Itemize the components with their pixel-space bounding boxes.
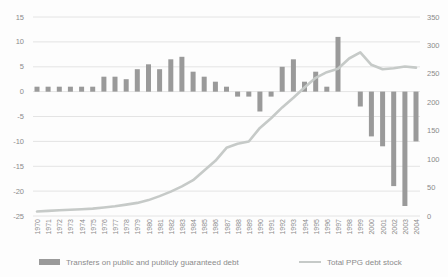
bar-2001 (380, 92, 385, 147)
bar-1985 (202, 77, 207, 92)
debt-transfers-chart: 151050-5-10-15-20-2535030025020015010050… (0, 0, 448, 256)
x-tick-label-1989: 1989 (246, 219, 253, 235)
bar-1976 (101, 77, 106, 92)
bar-1996 (324, 87, 329, 92)
right-axis-tick-250: 250 (427, 69, 440, 78)
x-tick-label-1983: 1983 (179, 219, 186, 235)
bar-1980 (146, 64, 151, 91)
left-axis-tick--10: -10 (13, 137, 24, 146)
x-tick-label-1995: 1995 (313, 219, 320, 235)
x-tick-label-1984: 1984 (190, 219, 197, 235)
bar-1990 (257, 92, 262, 112)
bar-2002 (391, 92, 396, 187)
bar-2000 (369, 92, 374, 137)
x-tick-label-1982: 1982 (168, 219, 175, 235)
bar-1978 (124, 79, 129, 91)
bar-1974 (79, 87, 84, 92)
bar-1979 (135, 69, 140, 91)
x-tick-label-1990: 1990 (257, 219, 264, 235)
left-axis-tick-15: 15 (16, 13, 24, 22)
x-tick-label-1999: 1999 (357, 219, 364, 235)
x-tick-label-1986: 1986 (212, 219, 219, 235)
line-series-swatch (299, 261, 321, 263)
x-tick-label-1981: 1981 (157, 219, 164, 235)
x-tick-label-1971: 1971 (45, 219, 52, 235)
left-axis-tick-0: 0 (20, 87, 24, 96)
x-tick-label-1993: 1993 (290, 219, 297, 235)
x-tick-label-1976: 1976 (101, 219, 108, 235)
x-tick-label-1994: 1994 (302, 219, 309, 235)
bar-1984 (191, 72, 196, 92)
x-tick-label-1998: 1998 (346, 219, 353, 235)
right-axis-tick-300: 300 (427, 41, 440, 50)
left-axis-tick--25: -25 (13, 212, 24, 221)
left-axis-tick--5: -5 (17, 112, 24, 121)
chart-legend: Transfers on public and publicly guarant… (0, 257, 448, 271)
x-tick-label-1977: 1977 (112, 219, 119, 235)
x-tick-label-1997: 1997 (335, 219, 342, 235)
right-axis-tick-50: 50 (427, 183, 435, 192)
x-tick-label-2002: 2002 (391, 219, 398, 235)
bar-2003 (402, 92, 407, 206)
legend-item-transfers: Transfers on public and publicly guarant… (39, 257, 239, 267)
right-axis-tick-150: 150 (427, 126, 440, 135)
x-tick-label-2001: 2001 (380, 219, 387, 235)
bar-1989 (246, 92, 251, 97)
x-tick-label-1973: 1973 (67, 219, 74, 235)
line-series-label: Total PPG debt stock (327, 258, 402, 267)
bar-1992 (280, 67, 285, 92)
bar-1993 (291, 59, 296, 91)
right-axis-tick-200: 200 (427, 98, 440, 107)
bar-1977 (113, 77, 118, 92)
bar-1975 (90, 87, 95, 92)
x-tick-label-1970: 1970 (34, 219, 41, 235)
bar-1971 (46, 87, 51, 92)
bar-1982 (168, 59, 173, 91)
bar-1981 (157, 69, 162, 91)
bar-1997 (336, 37, 341, 92)
x-tick-label-2004: 2004 (413, 219, 420, 235)
x-tick-label-1996: 1996 (324, 219, 331, 235)
x-tick-label-1992: 1992 (279, 219, 286, 235)
bar-series-label: Transfers on public and publicly guarant… (66, 258, 239, 267)
left-axis-tick-5: 5 (20, 62, 24, 71)
x-tick-label-1972: 1972 (56, 219, 63, 235)
x-tick-label-1974: 1974 (79, 219, 86, 235)
bar-1988 (235, 92, 240, 97)
bar-1986 (213, 82, 218, 92)
bar-series-swatch (39, 259, 60, 265)
x-tick-label-1987: 1987 (224, 219, 231, 235)
left-axis-tick--20: -20 (13, 187, 24, 196)
debt-stock-line (37, 52, 416, 211)
right-axis-tick-100: 100 (427, 155, 440, 164)
x-tick-label-1991: 1991 (268, 219, 275, 235)
x-tick-label-2000: 2000 (368, 219, 375, 235)
bar-1973 (68, 87, 73, 92)
bar-1995 (313, 72, 318, 92)
x-tick-label-1985: 1985 (201, 219, 208, 235)
bar-1991 (269, 92, 274, 97)
chart-screenshot: 151050-5-10-15-20-2535030025020015010050… (0, 0, 448, 277)
x-tick-label-1988: 1988 (235, 219, 242, 235)
x-tick-label-1975: 1975 (90, 219, 97, 235)
left-axis-tick-10: 10 (16, 37, 24, 46)
x-tick-label-1978: 1978 (123, 219, 130, 235)
bar-1987 (224, 87, 229, 92)
bar-1999 (358, 92, 363, 107)
right-axis-tick-0: 0 (427, 212, 431, 221)
left-axis-tick--15: -15 (13, 162, 24, 171)
bar-1972 (57, 87, 62, 92)
x-tick-label-2003: 2003 (402, 219, 409, 235)
x-tick-label-1980: 1980 (146, 219, 153, 235)
bar-1970 (35, 87, 40, 92)
bar-1983 (179, 57, 184, 92)
right-axis-tick-350: 350 (427, 13, 440, 22)
legend-item-debt-stock: Total PPG debt stock (299, 257, 402, 267)
x-tick-label-1979: 1979 (134, 219, 141, 235)
bar-2004 (414, 92, 419, 142)
